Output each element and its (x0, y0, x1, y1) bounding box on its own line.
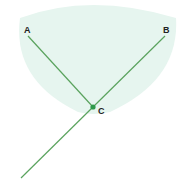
label-a: A (24, 25, 31, 35)
label-c: C (98, 106, 105, 116)
label-b: B (163, 25, 170, 35)
ray-c-down (21, 107, 93, 178)
shaded-region (19, 5, 176, 114)
point-c (90, 104, 95, 109)
geometry-diagram: A B C (0, 0, 181, 189)
